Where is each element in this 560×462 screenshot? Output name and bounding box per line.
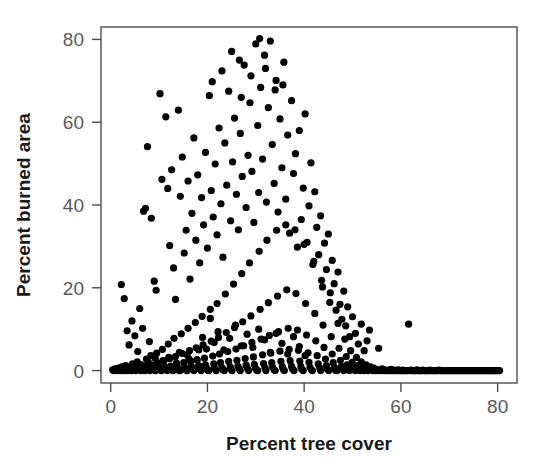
plot-canvas: 020406080 020406080 Percent tree cover P… (0, 0, 560, 462)
scatter-point (118, 281, 125, 288)
scatter-point (131, 332, 138, 339)
scatter-point (265, 104, 272, 111)
scatter-point (202, 149, 209, 156)
scatter-point (313, 224, 320, 231)
scatter-point (282, 221, 289, 228)
scatter-point (186, 276, 193, 283)
scatter-point (342, 322, 349, 329)
scatter-point (211, 339, 218, 346)
scatter-point (285, 325, 292, 332)
scatter-point (261, 336, 268, 343)
scatter-point (121, 295, 128, 302)
scatter-point (193, 356, 200, 363)
scatter-point (199, 313, 206, 320)
scatter-point (213, 300, 220, 307)
scatter-point (162, 113, 169, 120)
scatter-point (243, 204, 250, 211)
scatter-point (311, 188, 318, 195)
scatter-point (194, 171, 201, 178)
scatter-point (166, 242, 173, 249)
scatter-point (321, 239, 328, 246)
scatter-point (375, 345, 382, 352)
x-tick-label: 60 (390, 396, 411, 417)
scatter-point (303, 239, 310, 246)
scatter-point (177, 193, 184, 200)
scatter-point (263, 237, 270, 244)
scatter-point (347, 347, 354, 354)
scatter-point (315, 251, 322, 258)
scatter-point (247, 72, 254, 79)
scatter-point (128, 317, 135, 324)
scatter-point (257, 84, 264, 91)
scatter-point (208, 187, 215, 194)
y-tick-label: 0 (73, 361, 84, 382)
scatter-point (239, 318, 246, 325)
scatter-point (366, 326, 373, 333)
scatter-point (178, 330, 185, 337)
scatter-point (223, 182, 230, 189)
scatter-point (170, 335, 177, 342)
scatter-point (263, 199, 270, 206)
scatter-point (170, 264, 177, 271)
scatter-point (262, 367, 269, 374)
scatter-point (361, 347, 368, 354)
scatter-point (227, 217, 234, 224)
scatter-point (286, 230, 293, 237)
scatter-point (242, 355, 249, 362)
scatter-point (196, 259, 203, 266)
scatter-point (237, 130, 244, 137)
scatter-point (183, 227, 190, 234)
scatter-point (245, 367, 252, 374)
scatter-point (262, 65, 269, 72)
scatter-point (164, 185, 171, 192)
y-axis-title: Percent burned area (13, 113, 34, 297)
scatter-point (320, 344, 327, 351)
scatter-point (331, 280, 338, 287)
scatter-point (344, 303, 351, 310)
scatter-point (329, 257, 336, 264)
scatter-point (355, 340, 362, 347)
scatter-point (309, 261, 316, 268)
scatter-point (349, 313, 356, 320)
scatter-point (272, 367, 279, 374)
scatter-point (145, 359, 152, 366)
scatter-point (239, 173, 246, 180)
scatter-point (124, 327, 131, 334)
scatter-point (190, 134, 197, 141)
scatter-point (283, 286, 290, 293)
scatter-point (225, 88, 232, 95)
scatter-point (309, 367, 316, 374)
x-tick-label: 0 (105, 396, 116, 417)
scatter-point (272, 86, 279, 93)
scatter-point (259, 351, 266, 358)
scatter-point (248, 168, 255, 175)
scatter-point (352, 330, 359, 337)
scatter-point (231, 114, 238, 121)
scatter-point (250, 353, 257, 360)
scatter-point (238, 94, 245, 101)
scatter-point (179, 153, 186, 160)
scatter-point (215, 124, 222, 131)
scatter-point (278, 340, 285, 347)
scatter-point (152, 355, 159, 362)
x-axis-title: Percent tree cover (226, 433, 392, 454)
scatter-point (238, 270, 245, 277)
scatter-point (292, 150, 299, 157)
scatter-point (267, 37, 274, 44)
scatter-point (307, 159, 314, 166)
scatter-point (232, 321, 239, 328)
scatter-point (363, 337, 370, 344)
scatter-point (144, 143, 151, 150)
scatter-point (222, 290, 229, 297)
scatter-point (165, 340, 172, 347)
scatter-point (334, 268, 341, 275)
scatter-point (274, 292, 281, 299)
scatter-point (139, 325, 146, 332)
scatter-point (294, 326, 301, 333)
scatter-point (204, 244, 211, 251)
scatter-point (207, 306, 214, 313)
scatter-point (300, 184, 307, 191)
scatter-point (280, 59, 287, 66)
scatter-point (276, 348, 283, 355)
scatter-point (294, 244, 301, 251)
